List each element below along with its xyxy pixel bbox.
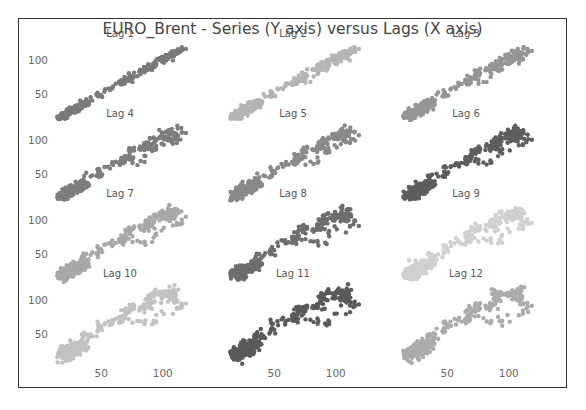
data-point xyxy=(61,345,65,349)
data-point xyxy=(95,90,99,94)
data-point xyxy=(311,74,315,78)
data-point xyxy=(148,217,152,221)
data-point xyxy=(337,134,341,138)
lag-panel-label: Lag 4 xyxy=(106,108,134,119)
data-point xyxy=(270,321,274,325)
data-point xyxy=(162,143,166,147)
data-point xyxy=(175,223,179,227)
data-point xyxy=(500,292,504,296)
data-point xyxy=(488,75,492,79)
data-point xyxy=(130,161,134,165)
data-point xyxy=(407,195,411,199)
data-point xyxy=(506,131,510,135)
data-point xyxy=(77,351,81,355)
data-point xyxy=(494,59,498,63)
data-point xyxy=(457,164,461,168)
data-point xyxy=(323,321,327,325)
data-point xyxy=(95,167,99,171)
data-point xyxy=(87,183,91,187)
data-point xyxy=(344,230,348,234)
data-point xyxy=(333,210,337,214)
data-point xyxy=(106,241,110,245)
data-point xyxy=(476,314,480,318)
data-point xyxy=(506,211,510,215)
data-point xyxy=(166,299,170,303)
data-point xyxy=(184,215,188,219)
data-point xyxy=(175,141,179,145)
data-point xyxy=(130,321,134,325)
data-point xyxy=(257,252,261,256)
data-point xyxy=(138,305,142,309)
data-point xyxy=(82,101,86,105)
lag-panel-label: Lag 10 xyxy=(103,268,137,279)
data-point xyxy=(74,262,78,266)
data-point xyxy=(505,313,509,317)
data-point xyxy=(463,79,467,83)
data-point xyxy=(301,153,305,157)
data-point xyxy=(172,131,176,135)
data-point xyxy=(478,224,482,228)
data-point xyxy=(430,96,434,100)
data-point xyxy=(357,47,361,51)
data-point xyxy=(339,303,343,307)
data-point xyxy=(512,136,516,140)
data-point xyxy=(95,244,99,248)
y-tick-label: 100 xyxy=(28,214,48,226)
data-point xyxy=(490,304,494,308)
data-point xyxy=(157,128,161,132)
data-point xyxy=(500,324,504,328)
data-point xyxy=(123,81,127,85)
data-point xyxy=(255,171,259,175)
data-point xyxy=(434,326,438,330)
y-tick-label: 50 xyxy=(35,328,48,340)
data-point xyxy=(258,262,262,266)
data-point xyxy=(83,344,87,348)
data-point xyxy=(303,81,307,85)
data-point xyxy=(250,191,254,195)
data-point xyxy=(448,319,452,323)
data-point xyxy=(494,215,498,219)
data-point xyxy=(327,291,331,295)
data-point xyxy=(476,239,480,243)
data-point xyxy=(85,338,89,342)
data-point xyxy=(163,56,167,60)
data-point xyxy=(247,338,251,342)
data-point xyxy=(517,226,521,230)
data-point xyxy=(276,165,280,169)
data-point xyxy=(257,175,261,179)
lag-panel-label: Lag 3 xyxy=(452,28,480,39)
data-point xyxy=(292,76,296,80)
data-point xyxy=(315,150,319,154)
data-point xyxy=(152,61,156,65)
data-point xyxy=(465,73,469,77)
data-point xyxy=(470,310,474,314)
data-point xyxy=(106,165,110,169)
y-tick-label: 50 xyxy=(35,88,48,100)
data-point xyxy=(171,296,175,300)
data-point xyxy=(503,136,507,140)
lag-panel-label: Lag 2 xyxy=(279,28,307,39)
data-point xyxy=(240,341,244,345)
data-point xyxy=(517,143,521,147)
data-point xyxy=(251,263,255,267)
data-point xyxy=(247,179,251,183)
data-point xyxy=(132,225,136,229)
data-point xyxy=(496,241,500,245)
data-point xyxy=(150,240,154,244)
data-point xyxy=(442,169,446,173)
data-point xyxy=(429,263,433,267)
data-point xyxy=(424,339,428,343)
data-point xyxy=(85,262,89,266)
data-point xyxy=(275,240,279,244)
data-point xyxy=(166,216,170,220)
data-point xyxy=(321,292,325,296)
data-point xyxy=(255,330,259,334)
lag-plot-grid: Lag 150100Lag 2Lag 3Lag 450100Lag 5Lag 6… xyxy=(0,0,586,410)
x-tick-label: 50 xyxy=(441,367,454,379)
data-point xyxy=(296,79,300,83)
data-point xyxy=(123,312,127,316)
data-point xyxy=(164,137,168,141)
data-point xyxy=(175,307,179,311)
data-point xyxy=(510,218,514,222)
data-point xyxy=(61,268,65,272)
